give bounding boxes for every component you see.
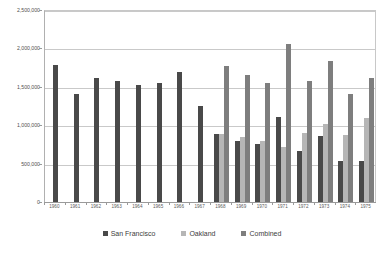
bar-group xyxy=(45,10,66,202)
bar-group xyxy=(107,10,128,202)
bar-group xyxy=(336,10,357,202)
bar-group xyxy=(273,10,294,202)
y-axis-tick-mark xyxy=(39,164,42,165)
y-axis-tick-label: 500,000 xyxy=(21,161,40,167)
x-axis-tick-label: 1968 xyxy=(215,204,225,209)
y-axis-tick-label: 1,500,000 xyxy=(17,84,40,90)
x-axis-tick-label: 1967 xyxy=(195,204,205,209)
legend-label: Oakland xyxy=(189,230,215,237)
bar-group xyxy=(170,10,191,202)
bar-san-francisco[interactable] xyxy=(198,106,203,202)
legend-item[interactable]: Combined xyxy=(241,230,281,237)
x-axis-tick-mark xyxy=(44,202,45,205)
x-axis-tick-mark xyxy=(106,202,107,205)
legend-label: Combined xyxy=(249,230,281,237)
x-axis-tick-mark xyxy=(86,202,87,205)
x-axis-tick-label: 1962 xyxy=(91,204,101,209)
x-axis-tick-label: 1961 xyxy=(70,204,80,209)
bar-combined[interactable] xyxy=(307,81,312,202)
x-axis-tick-label: 1964 xyxy=(132,204,142,209)
y-axis-tick-mark xyxy=(39,87,42,88)
bar-group xyxy=(211,10,232,202)
bar-group xyxy=(190,10,211,202)
x-axis-tick-label: 1975 xyxy=(361,204,371,209)
bar-san-francisco[interactable] xyxy=(177,72,182,202)
bar-combined[interactable] xyxy=(369,78,374,202)
bar-san-francisco[interactable] xyxy=(136,85,141,202)
bar-group xyxy=(253,10,274,202)
bar-group xyxy=(232,10,253,202)
bar-san-francisco[interactable] xyxy=(115,81,120,202)
bar-group xyxy=(294,10,315,202)
x-axis-tick-label: 1970 xyxy=(257,204,267,209)
bar-group xyxy=(87,10,108,202)
bar-combined[interactable] xyxy=(328,61,333,202)
bar-san-francisco[interactable] xyxy=(74,94,79,202)
bar-san-francisco[interactable] xyxy=(94,78,99,202)
y-axis-tick-label: 2,500,000 xyxy=(17,7,40,13)
bar-combined[interactable] xyxy=(286,44,291,202)
bar-group xyxy=(315,10,336,202)
bar-san-francisco[interactable] xyxy=(53,65,58,202)
y-axis-tick-mark xyxy=(39,202,42,203)
x-axis-tick-label: 1966 xyxy=(174,204,184,209)
bar-group xyxy=(128,10,149,202)
bar-combined[interactable] xyxy=(348,94,353,202)
x-axis-tick-label: 1973 xyxy=(319,204,329,209)
bar-group xyxy=(66,10,87,202)
bar-group xyxy=(149,10,170,202)
bar-combined[interactable] xyxy=(224,66,229,202)
x-axis-tick-label: 1960 xyxy=(49,204,59,209)
legend-swatch-icon xyxy=(241,231,246,236)
legend-swatch-icon xyxy=(181,231,186,236)
y-axis-tick-mark xyxy=(39,125,42,126)
legend-label: San Francisco xyxy=(111,230,156,237)
x-axis-tick-mark xyxy=(210,202,211,205)
y-axis-tick-label: 2,000,000 xyxy=(17,45,40,51)
x-axis-tick-mark xyxy=(169,202,170,205)
y-axis-tick-label: 1,000,000 xyxy=(17,122,40,128)
x-axis-tick-label: 1969 xyxy=(236,204,246,209)
chart-legend: San FranciscoOaklandCombined xyxy=(0,230,384,237)
x-axis-tick-label: 1963 xyxy=(112,204,122,209)
x-axis-tick-mark xyxy=(355,202,356,205)
x-axis-tick-mark xyxy=(335,202,336,205)
x-axis-tick-mark xyxy=(231,202,232,205)
x-axis-tick-mark xyxy=(293,202,294,205)
bar-combined[interactable] xyxy=(245,75,250,202)
y-axis-tick-mark xyxy=(39,48,42,49)
x-axis-tick-label: 1965 xyxy=(153,204,163,209)
x-axis-tick-mark xyxy=(314,202,315,205)
legend-item[interactable]: San Francisco xyxy=(103,230,156,237)
x-axis-labels: 1960196119621963196419651966196719681969… xyxy=(44,204,376,216)
x-axis-tick-mark xyxy=(65,202,66,205)
x-axis-tick-label: 1972 xyxy=(298,204,308,209)
plot-area xyxy=(44,10,376,202)
y-axis: 0500,0001,000,0001,500,0002,000,0002,500… xyxy=(0,0,42,212)
bar-combined[interactable] xyxy=(265,83,270,202)
x-axis-tick-label: 1971 xyxy=(278,204,288,209)
x-axis-tick-mark xyxy=(272,202,273,205)
bar-group xyxy=(356,10,377,202)
y-axis-tick-mark xyxy=(39,10,42,11)
legend-item[interactable]: Oakland xyxy=(181,230,215,237)
bar-san-francisco[interactable] xyxy=(157,83,162,202)
x-axis-tick-mark xyxy=(127,202,128,205)
x-axis-tick-mark xyxy=(189,202,190,205)
x-axis-tick-label: 1974 xyxy=(340,204,350,209)
x-axis-tick-mark xyxy=(148,202,149,205)
bar-chart: 0500,0001,000,0001,500,0002,000,0002,500… xyxy=(0,0,384,254)
legend-swatch-icon xyxy=(103,231,108,236)
x-axis-tick-mark xyxy=(252,202,253,205)
